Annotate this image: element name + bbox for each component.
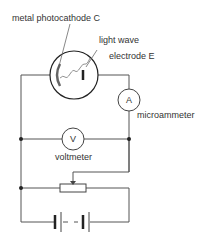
electrode-label: electrode E: [109, 51, 155, 61]
wire-right-top: [98, 75, 129, 89]
ammeter-label: microammeter: [137, 110, 195, 120]
light-wave-label: light wave: [99, 35, 139, 45]
ammeter-symbol: A: [126, 95, 132, 105]
photocathode-label: metal photocathode C: [12, 13, 100, 23]
light-wave-icon: [60, 58, 90, 78]
voltmeter-symbol: V: [70, 134, 76, 144]
voltmeter-label: voltmeter: [55, 152, 92, 162]
rheostat-icon: [60, 184, 86, 192]
